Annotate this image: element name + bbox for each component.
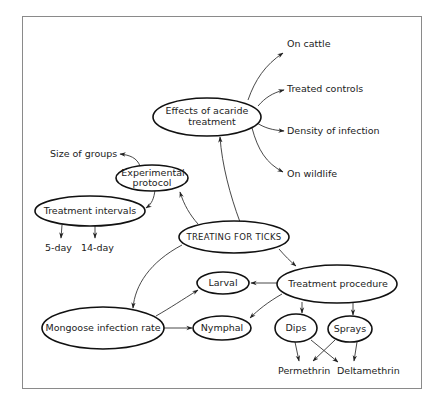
node-protocol: Experimental protocol — [116, 165, 188, 191]
edge-effects-on-cattle — [248, 53, 283, 100]
leaf-permethrin: Permethrin — [278, 365, 330, 376]
node-larval: Larval — [197, 272, 249, 294]
node-effects: Effects of acaride treatment — [153, 98, 261, 136]
edge-central-effects — [220, 137, 240, 222]
edge-effects-treated-controls — [258, 90, 284, 106]
leaf-deltamethrin: Deltamethrin — [337, 365, 400, 376]
edge-sprays-deltamethrin — [354, 342, 357, 361]
leaf-size-of-groups: Size of groups — [50, 148, 117, 159]
node-larval-label: Larval — [208, 277, 237, 288]
node-nymphal-label: Nymphal — [201, 322, 244, 333]
node-sprays-label: Sprays — [334, 323, 366, 334]
node-dips: Dips — [275, 314, 317, 342]
node-sprays: Sprays — [328, 316, 372, 342]
node-intervals-label: Treatment intervals — [43, 205, 137, 216]
node-effects-label-line2: treatment — [188, 116, 236, 127]
edge-central-mongoose — [133, 245, 182, 308]
edge-intervals-5day — [61, 225, 62, 238]
node-mongoose: Mongoose infection rate — [42, 307, 164, 349]
leaf-14-day: 14-day — [81, 242, 114, 253]
node-procedure-label: Treatment procedure — [287, 278, 388, 289]
node-effects-label-line1: Effects of acaride — [166, 105, 249, 116]
node-dips-label: Dips — [286, 322, 307, 333]
leaf-on-cattle: On cattle — [287, 38, 331, 49]
node-central-label: TREATING FOR TICKS — [185, 232, 281, 242]
node-central: TREATING FOR TICKS — [179, 221, 289, 253]
edge-central-procedure — [279, 249, 296, 266]
edge-sprays-permethrin — [313, 340, 335, 361]
concept-map: Effects of acaride treatment Experimenta… — [0, 0, 441, 403]
node-nymphal: Nymphal — [193, 316, 251, 340]
edge-effects-on-wildlife — [252, 128, 283, 172]
edge-effects-density — [257, 123, 284, 131]
edge-protocol-size — [120, 154, 140, 166]
edge-protocol-intervals — [146, 190, 155, 208]
edge-dips-permethrin — [295, 342, 299, 361]
node-mongoose-label: Mongoose infection rate — [45, 322, 160, 333]
leaf-treated-controls: Treated controls — [286, 83, 363, 94]
node-protocol-label-line2: protocol — [133, 177, 172, 188]
node-intervals: Treatment intervals — [35, 196, 145, 226]
edge-procedure-nymphal — [250, 294, 282, 318]
leaf-density-of-infection: Density of infection — [287, 125, 380, 136]
node-procedure: Treatment procedure — [277, 265, 397, 303]
leaf-on-wildlife: On wildlife — [287, 168, 337, 179]
leaf-5-day: 5-day — [45, 242, 72, 253]
edge-central-protocol — [180, 192, 198, 224]
edge-mongoose-larval — [156, 290, 198, 316]
